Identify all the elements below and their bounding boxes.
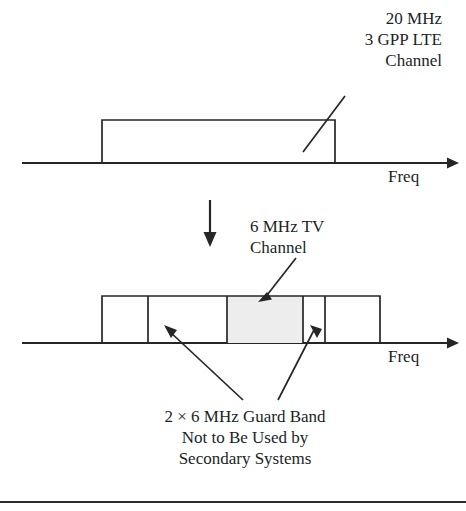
freq-axis-label-bottom: Freq	[388, 346, 458, 367]
lte-channel-label: 20 MHz 3 GPP LTE Channel	[252, 8, 442, 71]
spectrum-diagram: 20 MHz 3 GPP LTE Channel 6 MHz TV Channe…	[0, 0, 466, 511]
top-spectrum-panel	[22, 96, 459, 169]
freq-axis-label-top: Freq	[388, 166, 458, 187]
down-arrow-icon	[204, 200, 217, 247]
tv-channel-label: 6 MHz TV Channel	[250, 216, 400, 258]
guard-band-caption: 2 × 6 MHz Guard Band Not to Be Used by S…	[83, 406, 407, 469]
bottom-spectrum-panel	[22, 258, 459, 400]
lte-channel-block	[102, 120, 335, 163]
segment-3-tv-fill	[227, 296, 303, 343]
leader-line-icon-lte	[303, 96, 345, 152]
